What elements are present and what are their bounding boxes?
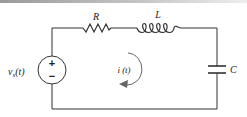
resistor-label: R <box>92 11 99 22</box>
current-label: i (t) <box>117 65 130 75</box>
inductor-label: L <box>154 9 161 20</box>
resistor-symbol <box>83 24 111 32</box>
wires <box>52 28 217 109</box>
source-label: vs(t) <box>8 66 25 79</box>
inductor-symbol <box>137 24 181 33</box>
minus-sign: − <box>49 70 55 82</box>
rlc-circuit-diagram: + − vs(t) R L C i (t) <box>0 0 247 117</box>
voltage-source-symbol: + − <box>38 56 66 84</box>
capacitor-symbol <box>208 66 226 73</box>
current-arrow-icon <box>119 80 128 88</box>
current-loop: i (t) <box>117 53 142 88</box>
capacitor-label: C <box>230 64 237 75</box>
plus-sign: + <box>49 57 55 69</box>
